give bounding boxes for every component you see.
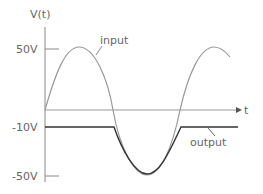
diagram: V(t) t 50V -10V -50V input output <box>0 0 263 194</box>
x-axis-label: t <box>244 104 249 117</box>
y-axis-label: V(t) <box>30 8 50 21</box>
input-curve <box>45 47 230 175</box>
tick-label-50: 50V <box>16 43 38 56</box>
tick-label-minus10: -10V <box>12 121 38 134</box>
output-label: output <box>190 136 227 149</box>
tick-label-minus50: -50V <box>12 170 38 183</box>
input-label: input <box>100 34 129 47</box>
arrow-icon <box>236 107 242 113</box>
input-leader <box>96 46 102 55</box>
output-curve <box>45 127 238 174</box>
output-leader <box>208 128 215 136</box>
